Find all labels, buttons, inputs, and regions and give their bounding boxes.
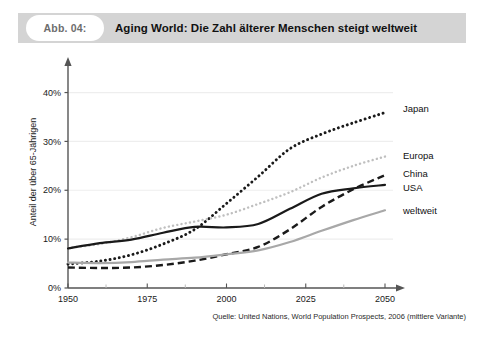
figure-number-label: Abb. 04: (43, 22, 86, 34)
chart-area: Anteil der über 65-Jährigen 0%10%20%30%4… (0, 55, 484, 305)
series-label-group: JapanEuropaChinaUSAweltweit (402, 103, 437, 217)
x-tick-label: 1950 (58, 294, 78, 304)
line-chart-svg: 0%10%20%30%40% 19501975200020252050 Japa… (0, 55, 484, 305)
figure-title: Aging World: Die Zahl älterer Menschen s… (115, 13, 417, 43)
series-label-china: China (403, 168, 429, 179)
x-tick-label: 2025 (296, 294, 316, 304)
series-line-weltweit (68, 210, 385, 263)
series-label-usa: USA (403, 182, 423, 193)
y-axis-label: Anteil der über 65-Jährigen (28, 77, 38, 267)
y-tick-label: 0% (48, 283, 61, 293)
series-label-europa: Europa (403, 150, 434, 161)
x-tick-label: 2000 (216, 294, 236, 304)
series-label-weltweit: weltweit (402, 205, 437, 216)
series-label-japan: Japan (403, 103, 429, 114)
x-tick-group: 19501975200020252050 (58, 284, 395, 305)
figure-number-badge: Abb. 04: (26, 15, 104, 41)
source-note: Quelle: United Nations, World Population… (0, 312, 466, 321)
y-tick-label: 30% (43, 137, 61, 147)
x-tick-label: 1975 (137, 294, 157, 304)
x-tick-label: 2050 (375, 294, 395, 304)
y-tick-label: 40% (43, 88, 61, 98)
figure-container: Abb. 04: Aging World: Die Zahl älterer M… (0, 0, 484, 338)
y-tick-group: 0%10%20%30%40% (43, 88, 68, 293)
y-tick-label: 20% (43, 185, 61, 195)
y-tick-label: 10% (43, 234, 61, 244)
gridlines-group (68, 93, 393, 240)
